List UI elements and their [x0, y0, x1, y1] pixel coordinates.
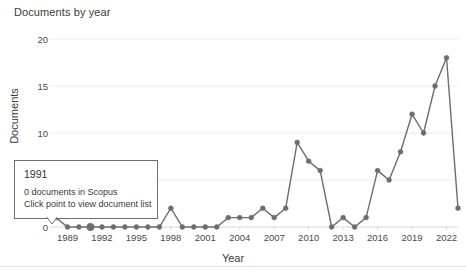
data-point-2008[interactable]	[283, 206, 288, 211]
data-point-2017[interactable]	[387, 178, 392, 183]
tooltip-hint-line: Click point to view document list	[24, 199, 148, 211]
x-tick-label-1989: 1989	[57, 232, 78, 243]
x-tick-label-1995: 1995	[126, 232, 147, 243]
tooltip-year: 1991	[24, 168, 148, 180]
data-point-2005[interactable]	[249, 215, 254, 220]
x-tick-label-1992: 1992	[91, 232, 112, 243]
data-point-2010[interactable]	[306, 159, 311, 164]
data-point-2019[interactable]	[410, 112, 415, 117]
data-point-2001[interactable]	[203, 225, 208, 230]
data-point-2013[interactable]	[341, 215, 346, 220]
data-point-2023[interactable]	[456, 206, 461, 211]
data-point-1997[interactable]	[157, 225, 162, 230]
data-point-2018[interactable]	[398, 149, 403, 154]
data-point-2021[interactable]	[433, 84, 438, 89]
tooltip-count-line: 0 documents in Scopus	[24, 187, 148, 199]
data-point-1996[interactable]	[145, 225, 150, 230]
x-tick-label-2004: 2004	[229, 232, 250, 243]
data-point-2004[interactable]	[237, 215, 242, 220]
data-point-1990[interactable]	[77, 225, 82, 230]
data-point-1992[interactable]	[100, 225, 105, 230]
x-tick-label-2007: 2007	[264, 232, 285, 243]
data-point-1998[interactable]	[168, 206, 173, 211]
data-point-1995[interactable]	[134, 225, 139, 230]
data-point-2022[interactable]	[444, 55, 449, 60]
x-tick-label-2010: 2010	[298, 232, 319, 243]
x-tick-label-2001: 2001	[195, 232, 216, 243]
chart-panel: Documents by year Documents Year 1989199…	[0, 0, 466, 274]
data-point-tooltip[interactable]: 1991 0 documents in Scopus Click point t…	[14, 160, 158, 219]
x-tick-label-2022: 2022	[436, 232, 457, 243]
x-tick-label-1998: 1998	[160, 232, 181, 243]
data-point-2006[interactable]	[260, 206, 265, 211]
data-point-2009[interactable]	[295, 140, 300, 145]
data-point-2000[interactable]	[191, 225, 196, 230]
data-point-2020[interactable]	[421, 131, 426, 136]
y-tick-label-15: 15	[18, 81, 48, 92]
data-point-1989[interactable]	[65, 225, 70, 230]
data-point-1993[interactable]	[111, 225, 116, 230]
panel-divider	[0, 266, 466, 267]
y-tick-label-20: 20	[18, 34, 48, 45]
data-point-2011[interactable]	[318, 168, 323, 173]
x-tick-label-2016: 2016	[367, 232, 388, 243]
data-point-2012[interactable]	[329, 225, 334, 230]
y-tick-label-0: 0	[18, 222, 48, 233]
data-point-2016[interactable]	[375, 168, 380, 173]
data-point-2014[interactable]	[352, 225, 357, 230]
data-point-2003[interactable]	[226, 215, 231, 220]
data-point-1999[interactable]	[180, 225, 185, 230]
x-axis-label: Year	[0, 252, 466, 264]
x-tick-label-2019: 2019	[401, 232, 422, 243]
data-point-2015[interactable]	[364, 215, 369, 220]
tooltip-pointer-icon	[46, 216, 58, 224]
data-point-2007[interactable]	[272, 215, 277, 220]
data-point-1994[interactable]	[123, 225, 128, 230]
data-point-2002[interactable]	[214, 225, 219, 230]
y-tick-label-10: 10	[18, 128, 48, 139]
data-point-selected-1991[interactable]	[87, 223, 94, 230]
x-tick-label-2013: 2013	[333, 232, 354, 243]
